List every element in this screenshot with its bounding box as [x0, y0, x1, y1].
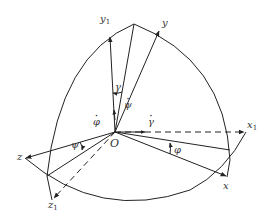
label-y1: y1	[100, 14, 110, 26]
axis-x-node	[115, 132, 230, 150]
angle-phi-arc	[170, 143, 171, 154]
label-psi: ψ	[71, 140, 79, 150]
label-x: x	[223, 181, 229, 191]
label-x1: x1	[247, 120, 257, 132]
arc-bottom	[25, 132, 246, 201]
label-origin: O	[110, 138, 119, 149]
label-y: y	[162, 18, 168, 28]
label-gamma: γ	[115, 82, 121, 92]
label-phi-dot: φ	[93, 117, 100, 127]
euler-angle-diagram	[0, 0, 270, 216]
axis-top-edge	[115, 24, 134, 132]
arc-right	[134, 24, 230, 177]
label-gamma-dot: γ	[148, 117, 154, 127]
arc-z1	[47, 176, 52, 200]
label-phi: φ	[174, 145, 181, 155]
angle-gamma-arc	[113, 92, 122, 93]
label-z1: z1	[48, 200, 58, 212]
angle-psi-arc	[80, 142, 82, 150]
label-psi-dot: ψ	[124, 100, 132, 110]
label-z: z	[17, 152, 22, 162]
